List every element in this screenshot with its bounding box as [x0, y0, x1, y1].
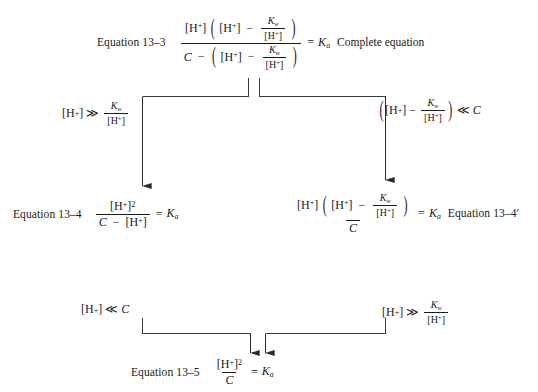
equation-13-4-prime-node: [H+] ( [H+] − Kw [H+] ) C = Ka Equation … — [292, 193, 519, 235]
equation-13-4-result: Ka — [167, 207, 179, 221]
equation-13-5-label: Equation 13–5 — [131, 366, 200, 379]
equation-13-3-numerator: [H+] ( [H+] − Kw [H+] ) — [182, 16, 300, 43]
equation-13-4-label: Equation 13–4 — [13, 208, 82, 221]
equation-13-3-tag: Complete equation — [337, 36, 424, 49]
equation-13-3-node: Equation 13–3 [H+] ( [H+] − Kw [H+] ) C … — [97, 16, 424, 70]
connector-bottom-right — [266, 318, 386, 334]
equation-13-5-denominator: C — [222, 372, 236, 387]
equation-13-5-fraction: [H+]2 C — [214, 358, 245, 387]
equation-13-4-prime-numerator: [H+] ( [H+] − Kw [H+] ) — [294, 193, 412, 220]
condition-right-top: ( [H+] − Kw [H+] ) ≪ C — [378, 98, 481, 124]
equation-13-4-prime-label: Equation 13–4′ — [448, 207, 519, 220]
condition-right-bottom: [H+] ≫ Kw [H+] — [382, 300, 450, 326]
equation-13-5-node: Equation 13–5 [H+]2 C = Ka — [131, 358, 274, 387]
equation-13-3-denominator: C − ( [H+] − Kw [H+] ) — [181, 43, 302, 71]
equation-13-4-prime-result: Ka — [429, 207, 441, 221]
equation-13-3-label: Equation 13–3 — [97, 36, 166, 49]
condition-left-bottom: [H+] ≪ C — [81, 303, 129, 317]
equation-13-5-numerator: [H+]2 — [214, 358, 245, 372]
equation-13-4-prime-fraction: [H+] ( [H+] − Kw [H+] ) C — [294, 193, 412, 235]
equation-13-4-denominator: C − [H+] — [96, 214, 150, 229]
connector-top-right — [260, 78, 386, 97]
equation-13-3-result: Ka — [318, 36, 330, 50]
equation-13-4-fraction: [H+]2 C − [H+] — [96, 200, 150, 229]
equation-13-4-node: Equation 13–4 [H+]2 C − [H+] = Ka — [13, 200, 179, 229]
equation-13-4-prime-denominator: C — [346, 220, 360, 235]
equation-13-4-numerator: [H+]2 — [107, 200, 138, 214]
equation-13-5-result: Ka — [262, 365, 274, 379]
connector-top-left — [143, 78, 249, 97]
condition-left-top: [H+] ≫ Kw [H+] — [62, 101, 130, 127]
connector-bottom-left — [143, 318, 251, 334]
equation-13-3-fraction: [H+] ( [H+] − Kw [H+] ) C − ( [H+] − Kw … — [181, 16, 302, 70]
